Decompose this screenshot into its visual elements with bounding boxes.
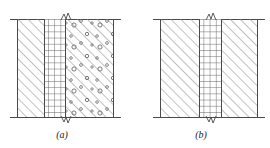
figure-container: (a) (b) bbox=[0, 0, 270, 148]
panel-a-body bbox=[17, 19, 114, 117]
panel-a-band-edge-core-right bbox=[65, 19, 66, 117]
panel-b-caption: (b) bbox=[185, 129, 217, 141]
panel-b-band-edge-left bbox=[160, 19, 161, 117]
panel-a-band-edge-right bbox=[113, 19, 114, 117]
panel-a-core-grid-fill bbox=[45, 19, 66, 117]
panel-b-body bbox=[160, 19, 258, 117]
panel-b-break-mark-top bbox=[205, 12, 217, 21]
panel-a-caption: (a) bbox=[46, 129, 78, 141]
panel-b-band-edge-right bbox=[257, 19, 258, 117]
panel-a-break-mark-bottom bbox=[60, 115, 72, 124]
panel-b-right-concrete-fill bbox=[222, 19, 258, 117]
panel-b-left-concrete-fill bbox=[160, 19, 200, 117]
panel-a-break-mark-top bbox=[60, 12, 72, 21]
panel-a-left-concrete-fill bbox=[17, 19, 45, 117]
panel-a-right-aggregate-speckles bbox=[66, 19, 114, 117]
panel-b-band-edge-core-left bbox=[199, 19, 200, 117]
panel-a-band-edge-core-left bbox=[44, 19, 45, 117]
panel-a-band-edge-left bbox=[17, 19, 18, 117]
panel-b-fill-svg bbox=[160, 19, 258, 117]
panel-b-break-mark-bottom bbox=[205, 115, 217, 124]
panel-b-band-edge-core-right bbox=[221, 19, 222, 117]
panel-b-core-grid-fill bbox=[200, 19, 222, 117]
